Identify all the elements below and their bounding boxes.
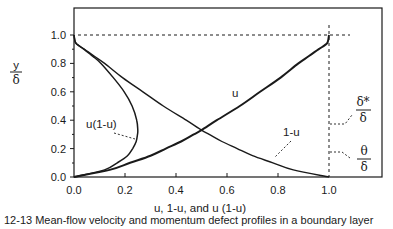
y-tick-labels: 0.0 0.2 0.4 0.6 0.8 1.0 <box>51 29 66 183</box>
y-tick-1: 0.2 <box>51 143 66 155</box>
y-tick-4: 0.8 <box>51 57 66 69</box>
one-minus-u-curve <box>74 35 329 177</box>
theta-numerator: θ <box>360 144 367 158</box>
theta-denominator: δ <box>360 160 367 174</box>
x-tick-5: 1.0 <box>321 184 336 196</box>
boundary-layer-chart: 0.0 0.2 0.4 0.6 0.8 1.0 y δ 0.0 0.2 0.4 … <box>0 0 393 229</box>
y-tick-3: 0.6 <box>51 86 66 98</box>
y-tick-2: 0.4 <box>51 114 66 126</box>
displacement-thickness-annotation: δ* δ <box>330 95 371 125</box>
delta-star-numerator: δ* <box>356 95 369 109</box>
u-one-minus-u-leader-line <box>114 133 135 139</box>
figure-caption: 12-13 Mean-flow velocity and momentum de… <box>4 214 373 226</box>
u-one-minus-u-curve-label: u(1-u) <box>86 118 117 130</box>
y-label-numerator: y <box>13 59 19 71</box>
x-tick-3: 0.6 <box>219 184 234 196</box>
x-tick-labels: 0.0 0.2 0.4 0.6 0.8 1.0 <box>66 184 336 196</box>
u-one-minus-u-curve <box>74 35 138 177</box>
displacement-thickness-leader <box>330 115 352 124</box>
y-tick-5: 1.0 <box>51 29 66 41</box>
one-minus-u-curve-label: 1-u <box>283 126 300 138</box>
u-curve <box>74 35 329 177</box>
y-tick-0: 0.0 <box>51 171 66 183</box>
momentum-thickness-annotation: θ δ <box>330 144 371 174</box>
x-tick-0: 0.0 <box>66 184 81 196</box>
x-tick-4: 0.8 <box>270 184 285 196</box>
delta-star-denominator: δ <box>359 111 366 125</box>
momentum-thickness-leader <box>330 152 350 158</box>
y-axis-title: y δ <box>10 59 22 87</box>
u-curve-label: u <box>232 87 238 99</box>
x-axis <box>125 173 278 177</box>
one-minus-u-leader-line <box>275 141 291 157</box>
x-tick-2: 0.4 <box>168 184 183 196</box>
x-axis-title: u, 1-u, and u (1-u) <box>154 202 246 214</box>
x-tick-1: 0.2 <box>117 184 132 196</box>
y-label-denominator: δ <box>12 73 19 87</box>
